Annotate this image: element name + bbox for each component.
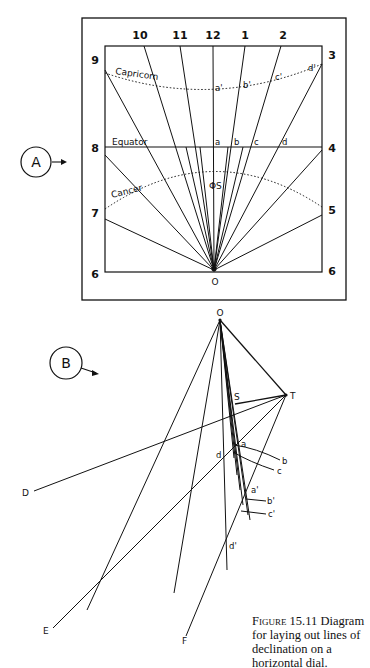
svg-text:7: 7 [91, 207, 99, 220]
capricorn-points-b: a' b' c' d' [229, 485, 275, 551]
point-d-label: D [22, 488, 29, 498]
equator-label: Equator [112, 137, 148, 147]
svg-text:A: A [31, 154, 41, 170]
svg-text:c: c [254, 137, 259, 147]
caption-label: Figure 15.11 [252, 614, 317, 628]
cancer-label: Cancer [110, 182, 143, 199]
point-f-label: F [182, 636, 187, 646]
svg-text:6: 6 [91, 268, 99, 281]
origin-label-a: O [211, 277, 218, 287]
capricorn-label: Capricorn [115, 66, 159, 82]
marker-b: B [50, 347, 99, 379]
equator-points-b: a b c d [216, 439, 287, 476]
part-a-dial [82, 18, 346, 300]
svg-text:8: 8 [91, 142, 99, 155]
svg-text:12: 12 [205, 29, 220, 42]
style-point-label: ΦS [209, 181, 222, 191]
figure-caption: Figure 15.11 Diagram for laying out line… [252, 614, 370, 668]
point-t-label: T [289, 391, 296, 401]
svg-text:b': b' [243, 80, 251, 90]
svg-text:c: c [277, 466, 282, 476]
svg-text:a': a' [215, 83, 223, 93]
svg-text:B: B [61, 355, 71, 371]
svg-text:a': a' [251, 485, 259, 495]
svg-text:5: 5 [328, 204, 336, 217]
marker-a: A [21, 147, 67, 177]
svg-text:4: 4 [328, 142, 336, 155]
svg-text:d: d [216, 450, 221, 460]
hour-lines [105, 46, 322, 270]
svg-text:d': d' [229, 541, 237, 551]
svg-text:9: 9 [91, 54, 99, 67]
svg-text:b: b [282, 456, 287, 466]
svg-text:d': d' [308, 63, 316, 73]
svg-text:d: d [282, 137, 287, 147]
svg-text:c': c' [275, 72, 282, 82]
svg-text:3: 3 [328, 49, 336, 62]
svg-text:b': b' [267, 496, 275, 506]
svg-text:b: b [234, 137, 239, 147]
part-b-construction [34, 320, 286, 636]
point-e-label: E [43, 626, 49, 636]
svg-text:c': c' [268, 509, 275, 519]
declination-diagram: A 10 11 12 1 2 9 8 7 6 3 4 5 6 Capricorn… [0, 0, 370, 668]
point-s-label: S [234, 392, 240, 402]
svg-text:11: 11 [172, 29, 187, 42]
svg-text:1: 1 [241, 29, 249, 42]
svg-text:10: 10 [132, 29, 148, 42]
svg-text:a: a [241, 439, 246, 449]
svg-text:2: 2 [279, 29, 287, 42]
apex-label-b: O [216, 308, 223, 318]
svg-text:6: 6 [328, 265, 336, 278]
svg-text:a: a [215, 137, 220, 147]
